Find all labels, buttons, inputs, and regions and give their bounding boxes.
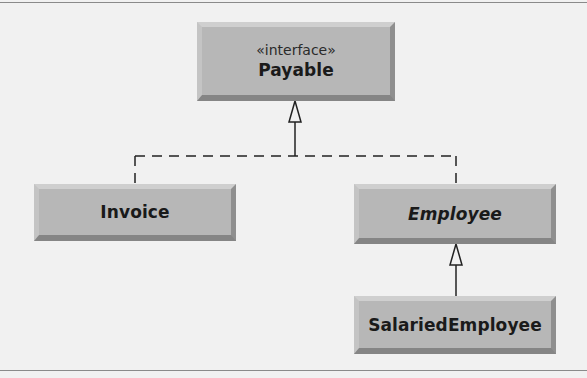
stereotype-label: «interface» — [256, 42, 336, 58]
class-payable: «interface» Payable — [197, 22, 395, 101]
class-invoice: Invoice — [34, 184, 236, 241]
class-name: Payable — [258, 60, 334, 80]
class-name: Employee — [408, 204, 502, 224]
class-name: Invoice — [100, 202, 169, 222]
generalization-arrowhead-icon — [450, 244, 462, 265]
class-name: SalariedEmployee — [368, 315, 542, 335]
class-salaried-employee: SalariedEmployee — [354, 296, 556, 354]
class-employee: Employee — [354, 184, 556, 244]
realization-arrowhead-icon — [289, 101, 301, 122]
